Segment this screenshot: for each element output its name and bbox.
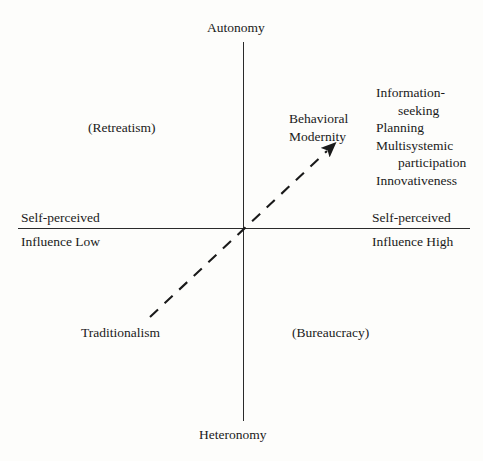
quadrant-label-retreatism: (Retreatism)	[88, 120, 155, 136]
quadrant-diagram: Autonomy Heteronomy Self-perceived Influ…	[0, 0, 483, 461]
vertical-axis	[243, 42, 244, 421]
axis-label-autonomy: Autonomy	[207, 18, 265, 37]
axis-label-influence-high: Self-perceived Influence High	[372, 208, 453, 251]
influence-high-line-1: Self-perceived	[372, 208, 453, 228]
arrow-caption: Behavioral Modernity	[289, 110, 348, 145]
attribute-main: Multisystemic	[376, 138, 453, 153]
arrow-caption-line-2: Modernity	[289, 128, 348, 146]
attribute-item: Multisystemic participation	[376, 137, 466, 172]
attribute-item: Information- seeking	[376, 84, 466, 119]
attribute-item: Planning	[376, 119, 466, 137]
quadrant-label-bureaucracy: (Bureaucracy)	[292, 325, 369, 341]
attribute-main: Information-	[376, 85, 445, 100]
attribute-continuation: seeking	[376, 102, 466, 120]
quadrant-label-traditionalism: Traditionalism	[81, 325, 160, 341]
influence-low-line-1: Self-perceived	[21, 208, 100, 228]
attribute-item: Innovativeness	[376, 172, 466, 190]
attribute-list: Information- seeking Planning Multisyste…	[376, 84, 466, 189]
axis-label-heteronomy: Heteronomy	[199, 425, 266, 444]
influence-high-line-2: Influence High	[372, 232, 453, 252]
influence-low-line-2: Influence Low	[21, 232, 100, 252]
arrow-caption-line-1: Behavioral	[289, 110, 348, 128]
axis-label-influence-low: Self-perceived Influence Low	[21, 208, 100, 251]
attribute-continuation: participation	[376, 154, 466, 172]
attribute-main: Innovativeness	[376, 173, 457, 188]
attribute-main: Planning	[376, 120, 424, 135]
